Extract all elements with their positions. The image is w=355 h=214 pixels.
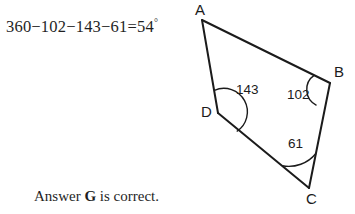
quadrilateral-figure: [0, 0, 355, 214]
side-da: [202, 20, 218, 113]
angle-arc-c: [282, 154, 316, 167]
angle-measure-c: 61: [288, 137, 303, 151]
angle-measure-d: 143: [236, 83, 259, 97]
answer-statement: Answer G is correct.: [34, 188, 159, 205]
answer-choice: G: [84, 188, 96, 204]
vertex-label-c: C: [306, 191, 317, 206]
angle-measure-b: 102: [287, 88, 310, 102]
side-ab: [202, 20, 330, 83]
side-bc: [309, 83, 330, 188]
vertex-label-b: B: [334, 64, 344, 79]
answer-suffix: is correct.: [96, 188, 159, 204]
answer-prefix: Answer: [34, 188, 84, 204]
vertex-label-a: A: [195, 2, 205, 17]
worked-solution-page: 360−102−143−61=54° A B C D 143 102 61 An…: [0, 0, 355, 214]
vertex-label-d: D: [201, 104, 212, 119]
